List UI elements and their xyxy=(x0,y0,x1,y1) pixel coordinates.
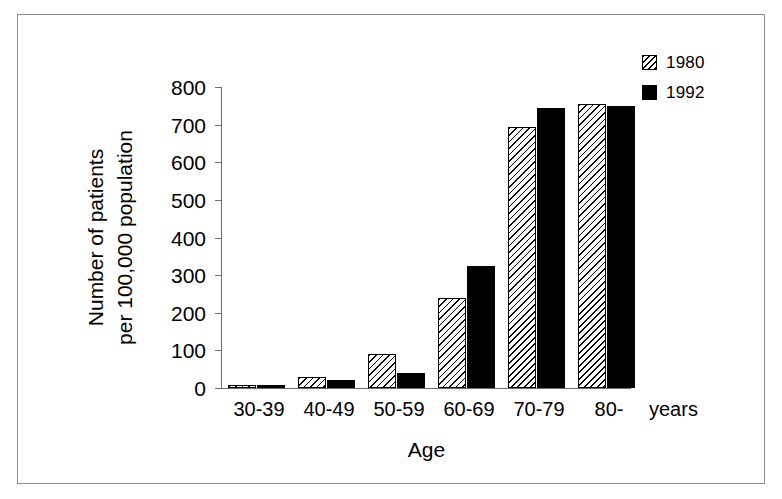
plot-area: 0100200300400500600700800 30-3940-4950-5… xyxy=(222,87,631,388)
legend-item-1992: 1992 xyxy=(642,83,762,101)
bar-1980-50-59 xyxy=(368,354,396,388)
bar-1992-50-59 xyxy=(397,373,425,388)
x-axis-title: Age xyxy=(222,439,631,460)
y-axis-tick xyxy=(215,200,222,201)
legend-label-1992: 1992 xyxy=(666,84,705,101)
x-axis-line xyxy=(221,388,631,389)
bar-group xyxy=(224,87,294,388)
bar-group xyxy=(294,87,364,388)
bar-1980-70-79 xyxy=(508,127,536,388)
bar-1992-60-69 xyxy=(467,266,495,388)
x-axis-tick-label: 60-69 xyxy=(434,399,504,419)
y-axis-tick xyxy=(215,87,222,88)
bar-1980-80- xyxy=(578,104,606,388)
bar-group xyxy=(364,87,434,388)
x-axis-tick-label: 50-59 xyxy=(364,399,434,419)
x-axis-tick-label: 70-79 xyxy=(504,399,574,419)
bar-1992-40-49 xyxy=(327,380,355,388)
bar-1992-80- xyxy=(607,106,635,388)
y-axis-tick xyxy=(215,350,222,351)
y-axis-tick-label: 300 xyxy=(171,265,206,286)
bar-group xyxy=(574,87,644,388)
chart-legend: 1980 1992 xyxy=(642,53,762,113)
y-axis-tick xyxy=(215,275,222,276)
y-axis-tick xyxy=(215,125,222,126)
y-axis-tick xyxy=(215,313,222,314)
y-axis-title-line-2: per 100,000 population xyxy=(110,130,139,345)
bar-1992-70-79 xyxy=(537,108,565,388)
y-axis-tick-label: 700 xyxy=(171,114,206,135)
y-axis-title-line-1: Number of patients xyxy=(81,149,110,326)
y-axis-tick xyxy=(215,238,222,239)
y-axis-tick-label: 400 xyxy=(171,227,206,248)
y-axis-tick-label: 100 xyxy=(171,340,206,361)
y-axis-tick-label: 200 xyxy=(171,302,206,323)
hatched-swatch-icon xyxy=(642,55,657,70)
bar-group xyxy=(504,87,574,388)
y-axis-tick-label: 500 xyxy=(171,189,206,210)
bar-1980-60-69 xyxy=(438,298,466,388)
x-axis-tick-label: 80- xyxy=(574,399,644,419)
y-axis-tick xyxy=(215,388,222,389)
legend-item-1980: 1980 xyxy=(642,53,762,71)
y-axis-title: Number of patients per 100,000 populatio… xyxy=(78,87,142,388)
x-axis-unit-label: years xyxy=(649,399,698,419)
legend-label-1980: 1980 xyxy=(666,54,705,71)
x-axis-tick-label: 40-49 xyxy=(294,399,364,419)
bar-1980-30-39 xyxy=(228,385,256,388)
y-axis-tick-label: 600 xyxy=(171,152,206,173)
figure-frame: 1980 1992 Number of patients per 100,000… xyxy=(17,14,765,484)
y-axis-tick-label: 800 xyxy=(171,77,206,98)
bar-group xyxy=(434,87,504,388)
solid-swatch-icon xyxy=(642,85,657,100)
y-axis-tick xyxy=(215,162,222,163)
y-axis-tick-label: 0 xyxy=(194,378,206,399)
bar-1980-40-49 xyxy=(298,377,326,388)
bar-1992-30-39 xyxy=(257,385,285,388)
x-axis-tick-label: 30-39 xyxy=(224,399,294,419)
